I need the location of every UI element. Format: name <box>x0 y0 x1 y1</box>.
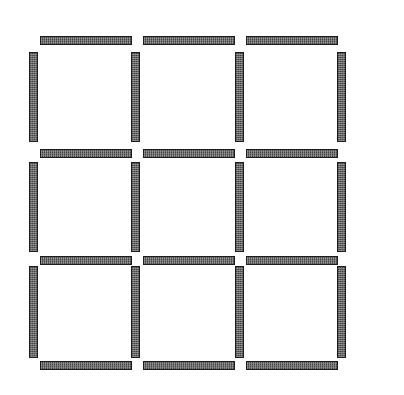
matchstick-h-r0-c1[interactable] <box>143 36 235 45</box>
matchstick-h-r1-c1[interactable] <box>143 149 235 158</box>
matchstick-figure-canvas <box>0 0 404 395</box>
matchstick-v-r0-c3[interactable] <box>337 52 346 142</box>
matchstick-h-r2-c0[interactable] <box>40 256 132 265</box>
matchstick-v-r1-c1[interactable] <box>131 162 140 252</box>
matchstick-h-r3-c1[interactable] <box>143 361 235 370</box>
matchstick-h-r3-c2[interactable] <box>246 361 338 370</box>
matchstick-v-r2-c0[interactable] <box>29 266 38 358</box>
matchstick-h-r1-c2[interactable] <box>246 149 338 158</box>
matchstick-v-r1-c3[interactable] <box>337 162 346 252</box>
matchstick-v-r1-c2[interactable] <box>235 162 244 252</box>
matchstick-v-r0-c0[interactable] <box>29 52 38 142</box>
matchstick-v-r0-c1[interactable] <box>131 52 140 142</box>
matchstick-h-r2-c1[interactable] <box>143 256 235 265</box>
matchstick-h-r3-c0[interactable] <box>40 361 132 370</box>
matchstick-h-r1-c0[interactable] <box>40 149 132 158</box>
matchstick-v-r2-c3[interactable] <box>337 266 346 358</box>
matchstick-v-r2-c1[interactable] <box>131 266 140 358</box>
matchstick-v-r1-c0[interactable] <box>29 162 38 252</box>
matchstick-v-r2-c2[interactable] <box>235 266 244 358</box>
matchstick-h-r0-c0[interactable] <box>40 36 132 45</box>
matchstick-v-r0-c2[interactable] <box>235 52 244 142</box>
matchstick-h-r2-c2[interactable] <box>246 256 338 265</box>
matchstick-h-r0-c2[interactable] <box>246 36 338 45</box>
